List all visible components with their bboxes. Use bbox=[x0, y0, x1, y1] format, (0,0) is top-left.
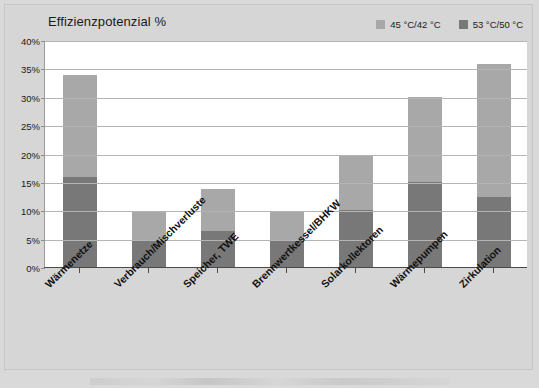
y-axis-tick-mark bbox=[41, 240, 45, 241]
bar-group bbox=[477, 64, 511, 268]
gridline bbox=[45, 69, 527, 70]
x-axis-labels: WärmenetzeVerbrauch/MischverlusteSpeiche… bbox=[0, 268, 539, 378]
gridline bbox=[45, 211, 527, 212]
y-axis-tick-mark bbox=[41, 183, 45, 184]
x-axis-tick-mark bbox=[493, 268, 494, 273]
x-axis-tick-mark bbox=[355, 268, 356, 273]
legend-item-0: 45 °C/42 °C bbox=[376, 19, 440, 30]
x-axis-tick-mark bbox=[286, 268, 287, 273]
x-axis-tick-mark bbox=[79, 268, 80, 273]
caption-remnant bbox=[90, 378, 450, 385]
gridline bbox=[45, 41, 527, 42]
gridline bbox=[45, 126, 527, 127]
y-axis-tick-mark bbox=[41, 126, 45, 127]
y-axis-tick-mark bbox=[41, 69, 45, 70]
y-axis-tick-mark bbox=[41, 155, 45, 156]
gridline bbox=[45, 240, 527, 241]
gridline bbox=[45, 183, 527, 184]
legend-swatch-dark bbox=[459, 20, 468, 29]
bar-segment-45c bbox=[408, 97, 442, 182]
bar-segment-45c bbox=[477, 64, 511, 197]
chart-legend: 45 °C/42 °C 53 °C/50 °C bbox=[376, 19, 523, 30]
y-axis-tick-mark bbox=[41, 211, 45, 212]
bar-segment-45c bbox=[201, 189, 235, 232]
chart-title: Effizienzpotenzial % bbox=[48, 14, 166, 29]
x-axis-tick-mark bbox=[148, 268, 149, 273]
legend-label-0: 45 °C/42 °C bbox=[390, 19, 440, 30]
gridline bbox=[45, 155, 527, 156]
legend-item-1: 53 °C/50 °C bbox=[459, 19, 523, 30]
plot-area: 0%5%10%15%20%25%30%35%40% bbox=[44, 41, 527, 268]
x-axis-tick-mark bbox=[217, 268, 218, 273]
x-axis-tick-mark bbox=[424, 268, 425, 273]
y-axis-tick-mark bbox=[41, 41, 45, 42]
chart-screenshot: Effizienzpotenzial % 45 °C/42 °C 53 °C/5… bbox=[0, 0, 539, 388]
gridline bbox=[45, 98, 527, 99]
y-axis-tick-mark bbox=[41, 98, 45, 99]
legend-label-1: 53 °C/50 °C bbox=[473, 19, 523, 30]
legend-swatch-light bbox=[376, 20, 385, 29]
